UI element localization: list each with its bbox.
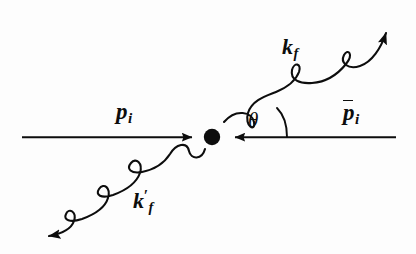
label-scattering-angle: θ: [248, 110, 258, 131]
label-kfprime-base: k: [133, 188, 144, 213]
label-kfprime-subscript: f: [148, 199, 153, 215]
label-pbar-subscript: i: [355, 110, 359, 127]
outgoing-photon-lower-wave: [49, 145, 205, 236]
label-incoming-particle-momentum: pi: [116, 100, 132, 125]
label-outgoing-photon-lower: k′f: [133, 188, 153, 214]
label-pi-base: p: [116, 99, 128, 124]
label-outgoing-photon-upper: kf: [282, 36, 298, 61]
scattering-angle-arc: [277, 108, 287, 137]
overbar-mark: [343, 100, 353, 102]
label-kf-base: k: [282, 34, 293, 59]
label-incoming-antiparticle-momentum: pi: [343, 101, 359, 126]
label-pbar-overbar-group: p: [343, 101, 355, 124]
scattering-diagram-svg: [0, 0, 416, 254]
label-pbar-base: p: [343, 100, 355, 125]
interaction-vertex-dot: [204, 129, 220, 145]
figure-canvas: pi pi kf k′f θ: [0, 0, 416, 254]
label-pi-subscript: i: [128, 109, 132, 126]
label-kf-subscript: f: [294, 45, 299, 61]
